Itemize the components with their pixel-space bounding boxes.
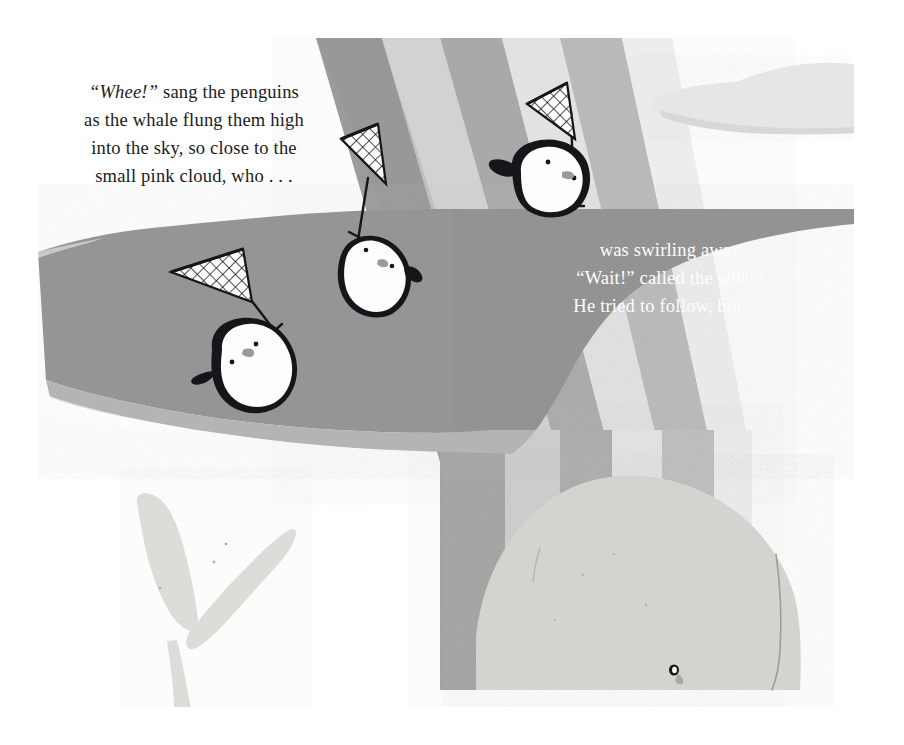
left-line-1: “Whee!” sang the penguins xyxy=(44,78,344,106)
right-line-1: was swirling away. xyxy=(527,236,817,264)
tail-speck-1 xyxy=(213,561,216,564)
left-line-4: small pink cloud, who . . . xyxy=(44,162,344,190)
left-line-2: as the whale flung them high xyxy=(44,106,344,134)
whale-speck-5 xyxy=(554,619,556,621)
penguin-top-eye-1 xyxy=(546,160,551,165)
whale-speck-2 xyxy=(613,553,615,555)
left-narration: “Whee!” sang the penguins as the whale f… xyxy=(44,78,344,190)
left-line-3: into the sky, so close to the xyxy=(44,134,344,162)
penguin-middle-eye-1 xyxy=(364,248,369,253)
whale-speck-1 xyxy=(582,574,585,577)
tail-speck-2 xyxy=(159,587,161,589)
penguin-bottom-eye-2 xyxy=(254,342,259,347)
right-narration: was swirling away. “Wait!” called the wh… xyxy=(527,236,817,320)
right-line-2: “Wait!” called the whale. xyxy=(527,264,817,292)
right-line-3: He tried to follow, but . . . xyxy=(527,292,817,320)
penguin-bottom-eye-1 xyxy=(230,360,235,365)
whale-speck-3 xyxy=(645,604,647,606)
whale-speck-4 xyxy=(703,559,705,561)
tail-speck-3 xyxy=(225,543,227,545)
penguin-middle-eye-2 xyxy=(390,264,395,269)
left-line-1-rest: sang the penguins xyxy=(158,82,299,102)
left-line-1-emphasis: “Whee!” xyxy=(89,82,158,102)
illustration-page: “Whee!” sang the penguins as the whale f… xyxy=(0,0,904,745)
